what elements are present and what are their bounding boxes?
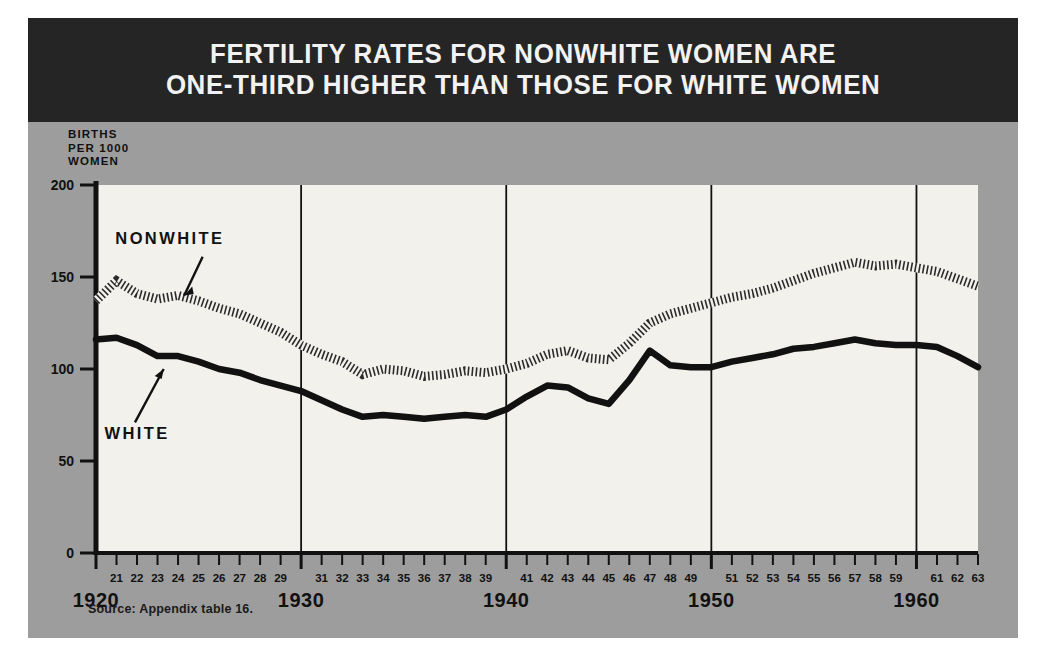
x-tick-label-1933: 33 [356, 572, 369, 584]
x-tick-label-1929: 29 [274, 572, 287, 584]
y-tick-label-0: 0 [66, 545, 74, 561]
x-tick-label-1946: 46 [623, 572, 636, 584]
x-tick-label-1934: 34 [377, 572, 390, 584]
x-decade-label-1950: 1950 [688, 589, 735, 611]
y-tick-label-50: 50 [58, 453, 74, 469]
x-tick-label-1924: 24 [172, 572, 185, 584]
x-tick-label-1928: 28 [254, 572, 267, 584]
x-tick-label-1956: 56 [828, 572, 841, 584]
y-tick-label-200: 200 [51, 177, 75, 193]
y-axis-ticks: 050100150200 [51, 177, 94, 561]
x-decade-label-1930: 1930 [278, 589, 325, 611]
x-tick-label-1953: 53 [766, 572, 779, 584]
x-tick-label-1963: 63 [972, 572, 985, 584]
x-tick-label-1937: 37 [438, 572, 451, 584]
x-tick-label-1943: 43 [561, 572, 574, 584]
x-decade-label-1940: 1940 [483, 589, 530, 611]
x-tick-label-1947: 47 [643, 572, 656, 584]
x-tick-label-1938: 38 [459, 572, 472, 584]
line-chart-svg: 050100150200 212223242526272829313233343… [28, 18, 1018, 638]
series-label-white: WHITE [104, 424, 169, 442]
x-tick-label-1954: 54 [787, 572, 800, 584]
x-tick-label-1958: 58 [869, 572, 882, 584]
x-tick-label-1926: 26 [213, 572, 226, 584]
figure-panel: FERTILITY RATES FOR NONWHITE WOMEN ARE O… [28, 18, 1018, 638]
x-tick-label-1936: 36 [418, 572, 431, 584]
x-tick-label-1923: 23 [151, 572, 164, 584]
x-tick-label-1932: 32 [336, 572, 349, 584]
x-tick-label-1945: 45 [602, 572, 615, 584]
x-tick-label-1942: 42 [541, 572, 554, 584]
x-tick-label-1944: 44 [582, 572, 595, 584]
x-tick-label-1949: 49 [684, 572, 697, 584]
x-tick-label-1962: 62 [951, 572, 964, 584]
x-tick-label-1948: 48 [664, 572, 677, 584]
x-tick-label-1959: 59 [890, 572, 903, 584]
series-label-nonwhite: NONWHITE [115, 229, 224, 247]
x-tick-label-1951: 51 [725, 572, 738, 584]
x-tick-label-1957: 57 [849, 572, 862, 584]
plot-area: 050100150200 212223242526272829313233343… [28, 18, 1018, 638]
x-tick-label-1952: 52 [746, 572, 759, 584]
source-note: Source: Appendix table 16. [88, 602, 253, 616]
x-decade-label-1960: 1960 [893, 589, 940, 611]
x-tick-label-1931: 31 [315, 572, 328, 584]
y-tick-label-150: 150 [51, 269, 75, 285]
x-tick-label-1955: 55 [808, 572, 821, 584]
x-tick-label-1941: 41 [520, 572, 533, 584]
x-tick-label-1939: 39 [479, 572, 492, 584]
x-tick-label-1935: 35 [397, 572, 410, 584]
x-tick-label-1922: 22 [131, 572, 144, 584]
x-tick-label-1927: 27 [233, 572, 246, 584]
x-tick-label-1925: 25 [192, 572, 205, 584]
x-tick-label-1961: 61 [931, 572, 944, 584]
x-tick-label-1921: 21 [110, 572, 123, 584]
y-tick-label-100: 100 [51, 361, 75, 377]
